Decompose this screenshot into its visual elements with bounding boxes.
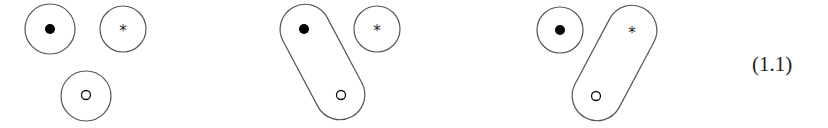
star-marker: * [628,24,636,42]
panel-2: * [271,0,400,128]
diagram-canvas: * * * [0,0,828,128]
open-dot-icon [82,91,91,100]
star-marker: * [119,22,127,40]
panel-1: * [25,4,146,121]
capsule-star-open [563,0,665,128]
star-marker: * [373,22,381,40]
filled-dot-icon [555,25,565,35]
filled-dot-icon [299,24,309,34]
open-dot-icon [592,92,601,101]
panel-3: * [537,0,666,128]
capsule-filled-open [271,0,373,128]
filled-dot-icon [45,24,55,34]
open-dot-icon [337,91,346,100]
equation-label: (1.1) [752,52,792,77]
